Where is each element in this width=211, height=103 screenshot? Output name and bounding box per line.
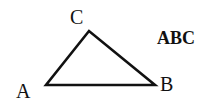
vertex-label-a: A — [16, 80, 31, 102]
triangle-diagram: C A B ABC — [0, 0, 211, 103]
vertex-label-c: C — [70, 6, 83, 28]
diagram-title: ABC — [157, 28, 195, 48]
vertex-label-b: B — [160, 73, 173, 95]
triangle-abc — [46, 31, 155, 85]
